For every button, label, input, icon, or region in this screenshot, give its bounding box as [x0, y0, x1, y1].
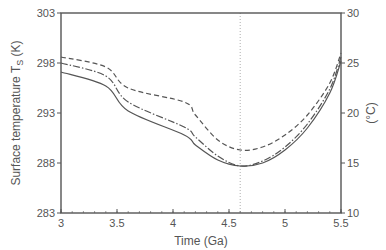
x-tick-label: 5 [282, 217, 288, 229]
y2-tick-label: 25 [347, 57, 359, 69]
axes-layer: 33.544.555.52832882932983031015202530 [37, 7, 360, 229]
y-axis-title-unit: (K) [9, 40, 23, 59]
y-axis-title-main: Surface temperature T [9, 65, 23, 186]
x-tick-label: 4 [170, 217, 176, 229]
chart: 33.544.555.52832882932983031015202530 Ti… [0, 0, 386, 250]
y2-tick-label: 30 [347, 7, 359, 19]
y-axis-title: Surface temperature TS (K) [9, 40, 25, 185]
y-tick-label: 283 [37, 207, 55, 219]
plot-frame [61, 13, 341, 213]
y2-tick-label: 15 [347, 157, 359, 169]
y2-tick-label: 10 [347, 207, 359, 219]
y2-tick-label: 20 [347, 107, 359, 119]
x-tick-label: 4.5 [221, 217, 236, 229]
y2-axis-title: (°C) [364, 102, 378, 123]
x-axis-title: Time (Ga) [174, 234, 228, 248]
series-line-dashed [61, 53, 341, 150]
series-line-solid [61, 61, 341, 166]
y-tick-label: 288 [37, 157, 55, 169]
y-tick-label: 303 [37, 7, 55, 19]
x-tick-label: 3 [58, 217, 64, 229]
y-tick-label: 298 [37, 57, 55, 69]
series-layer [61, 53, 341, 166]
x-tick-label: 3.5 [109, 217, 124, 229]
y-tick-label: 293 [37, 107, 55, 119]
